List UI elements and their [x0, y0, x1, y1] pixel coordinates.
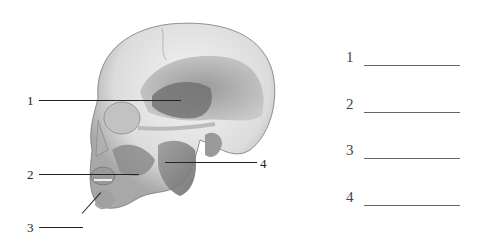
skull-muscle-illustration: 1 2 3 4 — [0, 0, 300, 240]
callout-number-2: 2 — [27, 168, 34, 181]
answer-blank-4[interactable] — [364, 205, 460, 206]
answer-blank-1[interactable] — [364, 65, 460, 66]
answer-row-4[interactable]: 4 — [346, 190, 461, 210]
answer-blank-3[interactable] — [364, 158, 460, 159]
callout-leader-2 — [39, 174, 139, 175]
callout-number-4: 4 — [260, 157, 267, 170]
skull-illustration-svg — [0, 0, 300, 240]
callout-leader-4 — [165, 162, 257, 163]
answer-number-2: 2 — [346, 97, 354, 112]
answer-blank-2[interactable] — [364, 112, 460, 113]
answer-row-3[interactable]: 3 — [346, 143, 461, 163]
answer-row-2[interactable]: 2 — [346, 97, 461, 117]
callout-number-3: 3 — [27, 221, 34, 234]
answer-row-1[interactable]: 1 — [346, 50, 461, 70]
callout-leader-1 — [39, 100, 181, 101]
answer-number-3: 3 — [346, 143, 354, 158]
callout-leader-3 — [39, 227, 83, 228]
answer-number-4: 4 — [346, 190, 354, 205]
callout-number-1: 1 — [27, 94, 34, 107]
answer-number-1: 1 — [346, 50, 354, 65]
